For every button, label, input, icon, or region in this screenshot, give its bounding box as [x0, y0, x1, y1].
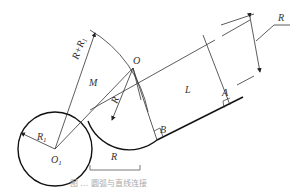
dim-ext-top: [221, 14, 254, 25]
label-b: B: [160, 124, 166, 135]
label-r-dim: R: [277, 12, 284, 23]
scale-bar: [90, 165, 140, 170]
label-l: L: [184, 84, 191, 95]
figure-caption: 图 ... 圆弧与直线连接: [70, 177, 270, 187]
dim-r-leader: [256, 25, 290, 41]
dim-r: [250, 17, 260, 72]
label-o: O: [133, 55, 140, 66]
connecting-arc: [88, 121, 157, 150]
radius-r: [112, 68, 133, 120]
offset-line-ext: [222, 20, 250, 36]
label-a: A: [221, 87, 229, 98]
line-l: [157, 97, 243, 140]
tangent-tick: [133, 68, 141, 100]
label-o1: O1: [51, 154, 62, 167]
label-r1: R1: [36, 131, 47, 144]
label-m: M: [88, 77, 98, 88]
label-r-radius: R: [108, 95, 121, 105]
diagram-canvas: R R+R1 O M R R1 O1 L A B R: [0, 0, 308, 187]
label-scale-r: R: [110, 151, 117, 162]
dim-ext-bottom: [237, 76, 254, 85]
